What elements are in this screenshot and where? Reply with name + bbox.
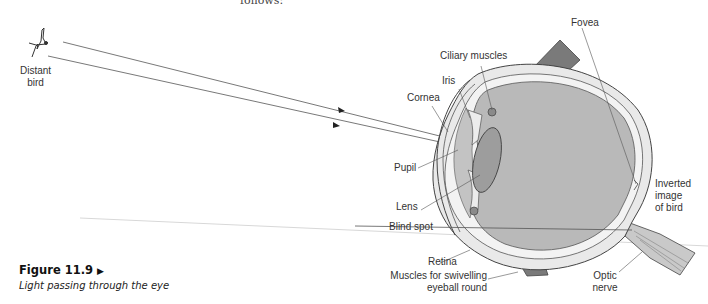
ciliary-muscle-lower [470, 207, 478, 215]
figure-number: Figure 11.9▶ [19, 263, 104, 277]
fovea-label: Fovea [571, 17, 599, 29]
optic-nerve-label: Optic nerve [585, 270, 625, 294]
cornea-label: Cornea [407, 92, 440, 104]
blind-spot-label: Blind spot [389, 221, 433, 233]
pupil-label: Pupil [394, 162, 416, 174]
optic-nerve-shape [625, 223, 695, 275]
figure-caption: Light passing through the eye [19, 280, 169, 291]
iris-label: Iris [442, 75, 455, 87]
muscles-label: Muscles for swivelling eyeball round [390, 270, 487, 294]
inverted-image-label: Inverted image of bird [655, 178, 691, 214]
ciliary-muscles-label: Ciliary muscles [440, 50, 507, 62]
lens-label: Lens [396, 201, 418, 213]
eye-diagram [0, 0, 708, 304]
figure-arrow-icon: ▶ [97, 266, 104, 276]
retina-label: Retina [428, 256, 457, 268]
distant-bird-label: Distant bird [20, 65, 51, 89]
bird-icon [29, 28, 48, 57]
